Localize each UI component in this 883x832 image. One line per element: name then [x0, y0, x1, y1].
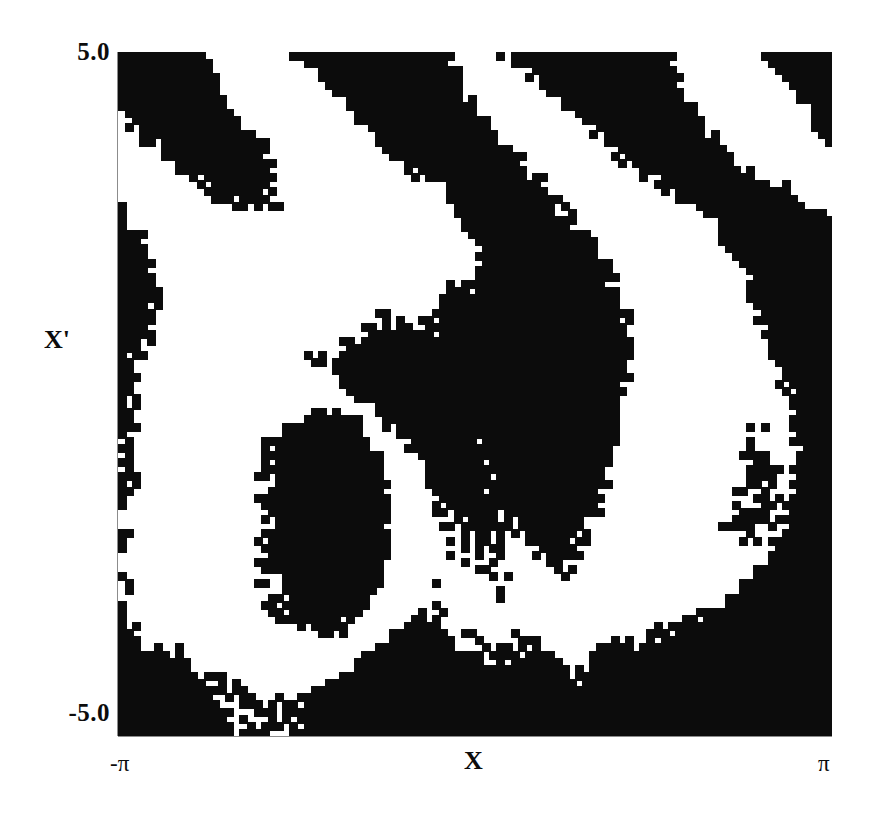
- x-axis-label: X: [464, 748, 483, 774]
- x-axis-tick-max: π: [818, 752, 830, 775]
- y-axis-label: X': [44, 327, 70, 353]
- y-axis-tick-max: 5.0: [10, 39, 110, 64]
- plot-area: [118, 52, 832, 736]
- figure-root: 5.0 -5.0 X' -π π X: [0, 0, 883, 832]
- phase-space-heatmap: [118, 52, 832, 736]
- y-axis-spine: [117, 52, 118, 736]
- x-axis-tick-min: -π: [110, 752, 129, 775]
- x-axis-spine: [118, 736, 832, 737]
- y-axis-tick-min: -5.0: [10, 700, 110, 725]
